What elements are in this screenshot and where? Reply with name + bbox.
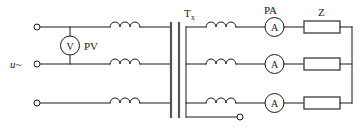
- transformer-core: [171, 22, 179, 118]
- primary-phase-a: [40, 22, 171, 27]
- input-terminal-a[interactable]: [34, 24, 40, 30]
- load-z-b[interactable]: [304, 58, 340, 70]
- neutral-terminal[interactable]: [237, 114, 243, 120]
- secondary-coil-a: [206, 22, 236, 27]
- voltmeter-group: V PV: [61, 27, 99, 64]
- load-label: Z: [318, 6, 325, 18]
- load-z-a[interactable]: [304, 21, 340, 33]
- primary-coil-a: [110, 22, 140, 27]
- source-label: u~: [10, 58, 22, 70]
- primary-coil-b: [110, 59, 140, 64]
- primary-phase-c: [40, 98, 171, 103]
- load-z-c[interactable]: [304, 97, 340, 109]
- secondary-coil-b: [206, 59, 236, 64]
- primary-phase-b: [40, 59, 171, 64]
- secondary-phase-b: A: [186, 55, 352, 74]
- secondary-coil-c: [206, 98, 236, 103]
- secondary-phase-c: A: [186, 94, 352, 113]
- input-terminal-b[interactable]: [34, 61, 40, 67]
- secondary-phase-a: A: [186, 18, 352, 37]
- ammeter-b-symbol: A: [271, 59, 279, 70]
- ammeter-a-symbol: A: [271, 22, 279, 33]
- neutral-line-group: [186, 114, 243, 120]
- voltmeter-symbol: V: [66, 41, 74, 52]
- ammeter-tag-label: PA: [264, 4, 277, 16]
- voltmeter-tag-label: PV: [84, 40, 98, 52]
- ammeter-c-symbol: A: [271, 98, 279, 109]
- input-terminal-c[interactable]: [34, 100, 40, 106]
- transformer-label-subscript: x: [191, 13, 195, 22]
- circuit-diagram: u~ V PV T x A: [0, 0, 360, 131]
- transformer-label: T: [184, 7, 191, 19]
- primary-coil-c: [110, 98, 140, 103]
